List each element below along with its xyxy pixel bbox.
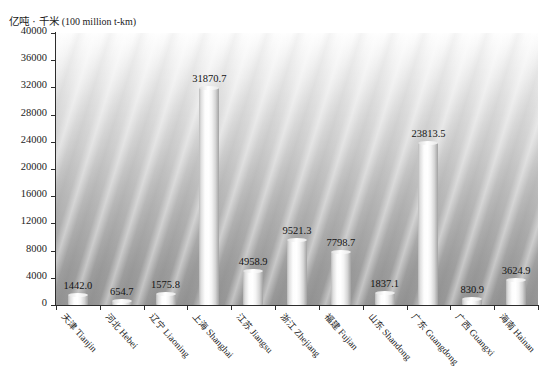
y-axis-tick: 8000 <box>0 251 56 252</box>
y-tick-label: 32000 <box>21 79 47 90</box>
x-axis-label: 山东 Shandong <box>365 312 412 363</box>
bar-value-label: 23813.5 <box>411 128 445 140</box>
x-axis-tick <box>231 306 232 310</box>
bar-value-label: 1837.1 <box>370 278 399 290</box>
bar-value-label: 9521.3 <box>283 225 312 237</box>
y-tick-label: 28000 <box>21 107 47 118</box>
bar-value-label: 1442.0 <box>63 280 92 292</box>
x-axis-tick <box>275 306 276 310</box>
y-axis-tick: 0 <box>0 305 56 306</box>
y-axis-tick: 40000 <box>0 33 56 34</box>
bar-cylinder <box>506 280 526 305</box>
bar-value-label: 830.9 <box>460 284 484 296</box>
y-tick-label: 40000 <box>21 25 47 36</box>
bar[interactable]: 1575.8 <box>156 274 176 305</box>
x-label-en: Jiangsu <box>247 325 275 355</box>
x-axis-tick <box>56 306 57 310</box>
y-axis-tick: 32000 <box>0 87 56 88</box>
y-axis-tick: 28000 <box>0 115 56 116</box>
bar-value-label: 1575.8 <box>151 279 180 291</box>
x-label-en: Guangxi <box>466 325 497 358</box>
bar[interactable]: 23813.5 <box>418 123 438 305</box>
y-axis-tick: 20000 <box>0 169 56 170</box>
y-axis-tick: 24000 <box>0 142 56 143</box>
bar[interactable]: 31870.7 <box>199 68 219 305</box>
bar[interactable]: 7798.7 <box>331 232 351 305</box>
x-axis-label: 上海 Shanghai <box>190 312 235 361</box>
x-axis-label: 江苏 Jiangsu <box>234 312 275 356</box>
x-label-en: Zhejiang <box>291 325 323 359</box>
x-axis-tick <box>319 306 320 310</box>
y-tick-mark <box>51 278 56 279</box>
bar-value-label: 7798.7 <box>326 237 355 249</box>
bar-top-cap <box>243 269 263 273</box>
bar[interactable]: 1442.0 <box>68 275 88 305</box>
bar-value-label: 3624.9 <box>502 265 531 277</box>
y-tick-label: 8000 <box>26 243 47 254</box>
x-label-en: Hainan <box>510 325 537 354</box>
y-tick-mark <box>51 33 56 34</box>
bar-top-cap <box>156 292 176 296</box>
y-tick-label: 24000 <box>21 134 47 145</box>
y-tick-mark <box>51 251 56 252</box>
x-axis-label: 天津 Tianjin <box>59 312 99 355</box>
x-label-en: Shandong <box>378 325 412 362</box>
bar-cylinder <box>156 294 176 305</box>
x-label-en: Guangdong <box>422 325 461 366</box>
bar-top-cap <box>68 293 88 297</box>
bar-value-label: 4958.9 <box>239 256 268 268</box>
y-tick-label: 20000 <box>21 161 47 172</box>
y-tick-label: 0 <box>42 297 47 308</box>
x-label-en: Fujian <box>334 325 359 352</box>
y-tick-label: 36000 <box>21 52 47 63</box>
x-axis-tick <box>144 306 145 310</box>
x-axis-label: 辽宁 Liaoning <box>146 312 191 360</box>
x-axis-label: 海南 Hainan <box>497 312 537 355</box>
bar[interactable]: 654.7 <box>112 281 132 305</box>
bar-cylinder <box>418 143 438 305</box>
y-tick-mark <box>51 60 56 61</box>
bar-top-cap <box>199 86 219 90</box>
bar-top-cap <box>287 238 307 242</box>
y-tick-mark <box>51 196 56 197</box>
bar-value-label: 31870.7 <box>192 73 226 85</box>
x-label-en: Shanghai <box>203 325 236 360</box>
bar-top-cap <box>462 297 482 301</box>
x-axis-tick <box>407 306 408 310</box>
x-axis-tick <box>100 306 101 310</box>
x-axis-tick <box>494 306 495 310</box>
x-axis-label: 河北 Hebei <box>103 312 140 351</box>
bar-cylinder <box>199 88 219 305</box>
y-tick-label: 4000 <box>26 270 47 281</box>
bar[interactable]: 830.9 <box>462 279 482 305</box>
y-tick-label: 16000 <box>21 188 47 199</box>
x-axis-label: 浙江 Zhejiang <box>278 312 322 360</box>
bar-cylinder <box>243 271 263 305</box>
bar-top-cap <box>331 250 351 254</box>
bar[interactable]: 3624.9 <box>506 260 526 305</box>
y-tick-mark <box>51 87 56 88</box>
bar-cylinder <box>375 293 395 305</box>
x-label-en: Liaoning <box>159 325 191 359</box>
y-tick-mark <box>51 169 56 170</box>
y-tick-mark <box>51 115 56 116</box>
y-tick-label: 12000 <box>21 215 47 226</box>
y-axis-tick: 4000 <box>0 278 56 279</box>
y-axis-title-en: (100 million t-km) <box>62 16 136 27</box>
bar[interactable]: 1837.1 <box>375 273 395 305</box>
plot-area: 1442.0654.71575.831870.74958.99521.37798… <box>56 33 538 305</box>
x-axis-label: 福建 Fujian <box>322 312 360 353</box>
bar[interactable]: 9521.3 <box>287 220 307 305</box>
x-axis-label: 广西 Guangxi <box>453 312 497 359</box>
y-axis-tick: 16000 <box>0 196 56 197</box>
bar[interactable]: 4958.9 <box>243 251 263 305</box>
bar-chart: 亿吨 · 千米 (100 million t-km) 1442.0654.715… <box>0 0 560 389</box>
x-axis-tick <box>363 306 364 310</box>
x-axis-line <box>55 305 539 306</box>
bar-cylinder <box>331 252 351 305</box>
x-label-en: Hebei <box>115 325 139 350</box>
x-axis-tick <box>187 306 188 310</box>
x-label-en: Tianjin <box>72 325 99 354</box>
y-axis-tick: 12000 <box>0 223 56 224</box>
x-axis-tick <box>450 306 451 310</box>
